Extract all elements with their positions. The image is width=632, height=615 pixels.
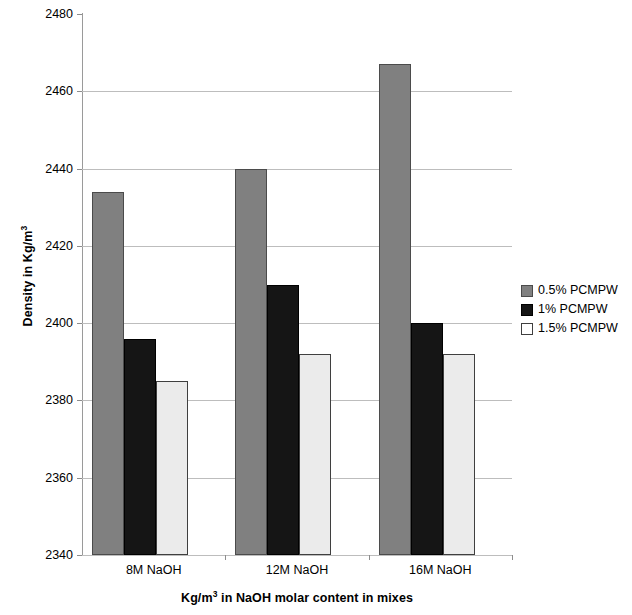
legend-item: 0.5% PCMPW [521, 281, 618, 300]
bar [267, 285, 299, 556]
y-axis-tick-label: 2480 [45, 8, 73, 21]
gridline [82, 91, 512, 92]
y-axis-tick-label: 2340 [45, 549, 73, 562]
y-axis-title-text: Density in Kg/m [21, 231, 35, 327]
y-axis-tick-label: 2420 [45, 240, 73, 253]
gridline [82, 555, 512, 556]
x-axis-title-text-rest: in NaOH molar content in mixes [217, 591, 413, 605]
x-axis-category-tick [512, 555, 513, 560]
y-axis-tick [77, 169, 82, 170]
x-axis-category-tick [369, 555, 370, 560]
plot-area: 24802460244024202400238023602340 [82, 14, 512, 555]
y-axis-tick [77, 246, 82, 247]
bar [411, 323, 443, 555]
legend-label: 1.5% PCMPW [538, 322, 618, 335]
legend-item: 1% PCMPW [521, 300, 618, 319]
y-axis-tick-label: 2400 [45, 317, 73, 330]
y-axis-tick [77, 323, 82, 324]
legend-label: 0.5% PCMPW [538, 284, 618, 297]
y-axis-title-superscript: 3 [19, 226, 29, 231]
legend-swatch-icon [521, 323, 533, 335]
gridline [82, 169, 512, 170]
y-axis-tick-label: 2440 [45, 162, 73, 175]
y-axis-tick [77, 555, 82, 556]
y-axis-tick-label: 2460 [45, 85, 73, 98]
y-axis-tick [77, 91, 82, 92]
x-axis-title: Kg/m3 in NaOH molar content in mixes [82, 589, 512, 605]
x-axis-category-label: 16M NaOH [369, 563, 512, 577]
y-axis-title: Density in Kg/m3 [19, 186, 35, 366]
gridline [82, 246, 512, 247]
bar [299, 354, 331, 555]
legend-label: 1% PCMPW [538, 303, 607, 316]
x-axis-category-label: 12M NaOH [225, 563, 368, 577]
y-axis-tick-label: 2380 [45, 394, 73, 407]
y-axis-tick [77, 400, 82, 401]
legend-swatch-icon [521, 285, 533, 297]
y-axis-tick [77, 14, 82, 15]
x-axis-category-label: 8M NaOH [82, 563, 225, 577]
bar [92, 192, 124, 555]
bar [235, 169, 267, 555]
legend-item: 1.5% PCMPW [521, 319, 618, 338]
y-axis-tick-label: 2360 [45, 471, 73, 484]
x-axis-title-text: Kg/m [181, 591, 213, 605]
bar [124, 339, 156, 555]
bar-chart: Density in Kg/m3 24802460244024202400238… [0, 0, 632, 615]
x-axis-category-tick [225, 555, 226, 560]
bar [379, 64, 411, 555]
legend: 0.5% PCMPW1% PCMPW1.5% PCMPW [521, 281, 618, 338]
bar [443, 354, 475, 555]
bar [156, 381, 188, 555]
legend-swatch-icon [521, 304, 533, 316]
y-axis-tick [77, 478, 82, 479]
